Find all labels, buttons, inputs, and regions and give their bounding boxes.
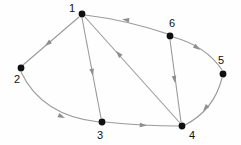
node-label-4: 4 <box>189 129 195 141</box>
node-label-1: 1 <box>69 2 75 14</box>
node-label-6: 6 <box>169 17 175 29</box>
arrowhead-3-to-4 <box>140 123 148 128</box>
edge-1-to-2 <box>23 17 79 65</box>
edge-6-to-4 <box>170 40 181 122</box>
nodes-layer <box>18 11 227 130</box>
directed-graph-figure: 123456 <box>0 0 241 145</box>
graph-canvas: 123456 <box>0 0 241 145</box>
node-1[interactable] <box>79 11 86 18</box>
node-label-2: 2 <box>14 73 20 85</box>
node-label-5: 5 <box>218 54 224 66</box>
node-4[interactable] <box>179 123 186 130</box>
node-label-3: 3 <box>97 129 103 141</box>
node-6[interactable] <box>167 33 174 40</box>
node-5[interactable] <box>220 71 227 78</box>
node-3[interactable] <box>99 119 106 126</box>
node-2[interactable] <box>18 65 25 72</box>
arrowhead-1-to-3 <box>89 68 95 76</box>
edge-6-to-5 <box>173 37 222 70</box>
edge-1-to-3 <box>82 18 101 118</box>
arrowheads-layer <box>44 17 210 128</box>
edge-5-to-4 <box>185 78 222 125</box>
arrowhead-5-to-4 <box>201 104 209 112</box>
edges-layer <box>21 15 222 126</box>
arrowhead-6-to-4 <box>172 76 178 84</box>
